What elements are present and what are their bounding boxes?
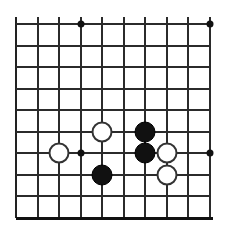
go-board[interactable]: [0, 0, 228, 231]
grid-line-vertical-0: [15, 17, 17, 218]
grid-line-vertical-6: [144, 17, 146, 218]
grid-line-horizontal-3: [16, 88, 210, 90]
star-point-top-right: [206, 21, 213, 28]
grid-line-vertical-9: [209, 17, 211, 218]
black-stone-3[interactable]: [92, 164, 113, 185]
grid-line-vertical-5: [123, 17, 125, 218]
black-stone-2[interactable]: [135, 143, 156, 164]
star-point-middle-right: [206, 150, 213, 157]
white-stone-3[interactable]: [49, 143, 70, 164]
grid-line-horizontal-2: [16, 66, 210, 68]
grid-line-horizontal-8: [16, 195, 210, 197]
grid-line-vertical-4: [101, 17, 103, 218]
white-stone-1[interactable]: [92, 121, 113, 142]
star-point-middle-left: [77, 150, 84, 157]
grid-line-vertical-2: [58, 17, 60, 218]
grid-line-vertical-8: [187, 17, 189, 218]
white-stone-4[interactable]: [156, 164, 177, 185]
grid-line-horizontal-9: [16, 217, 213, 220]
grid-line-horizontal-6: [16, 152, 210, 154]
black-stone-1[interactable]: [135, 121, 156, 142]
white-stone-2[interactable]: [156, 143, 177, 164]
grid-line-vertical-1: [37, 17, 39, 218]
grid-line-vertical-7: [166, 17, 168, 218]
grid-line-horizontal-4: [16, 109, 210, 111]
star-point-top-left: [77, 21, 84, 28]
grid-line-vertical-3: [80, 17, 82, 218]
grid-line-horizontal-5: [16, 131, 210, 133]
grid-line-horizontal-7: [16, 174, 210, 176]
grid-line-horizontal-1: [16, 45, 210, 47]
grid-line-horizontal-0: [16, 23, 210, 25]
